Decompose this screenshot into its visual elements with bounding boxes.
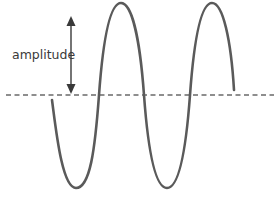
- amplitude-label: amplitude: [12, 47, 75, 62]
- sine-wave: [52, 3, 234, 188]
- sine-wave-diagram: [0, 0, 276, 198]
